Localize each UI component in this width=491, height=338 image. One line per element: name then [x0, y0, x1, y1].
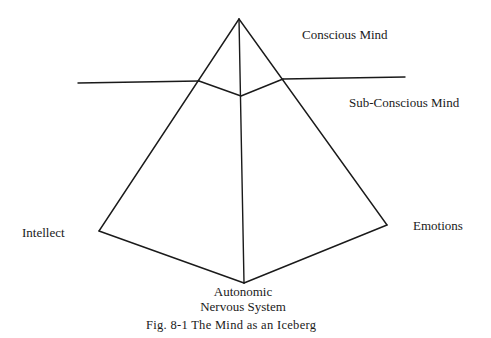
label-autonomic-line2: Nervous System	[183, 300, 303, 313]
waterline-right	[283, 77, 405, 79]
figure-caption: Fig. 8-1 The Mind as an Iceberg	[146, 318, 316, 333]
edge-apex-left	[99, 19, 239, 231]
label-subconscious-mind: Sub-Conscious Mind	[349, 96, 459, 109]
waterline-left	[78, 81, 199, 83]
edge-center-spine	[239, 19, 244, 283]
edge-apex-right	[239, 19, 387, 225]
label-autonomic-line1: Autonomic	[183, 285, 303, 298]
label-conscious-mind: Conscious Mind	[302, 28, 388, 41]
edge-right-bottom	[244, 225, 387, 283]
label-emotions: Emotions	[413, 219, 463, 232]
label-autonomic-nervous-system: Autonomic Nervous System	[183, 285, 303, 313]
label-intellect: Intellect	[22, 226, 65, 239]
edge-left-bottom	[99, 231, 244, 283]
